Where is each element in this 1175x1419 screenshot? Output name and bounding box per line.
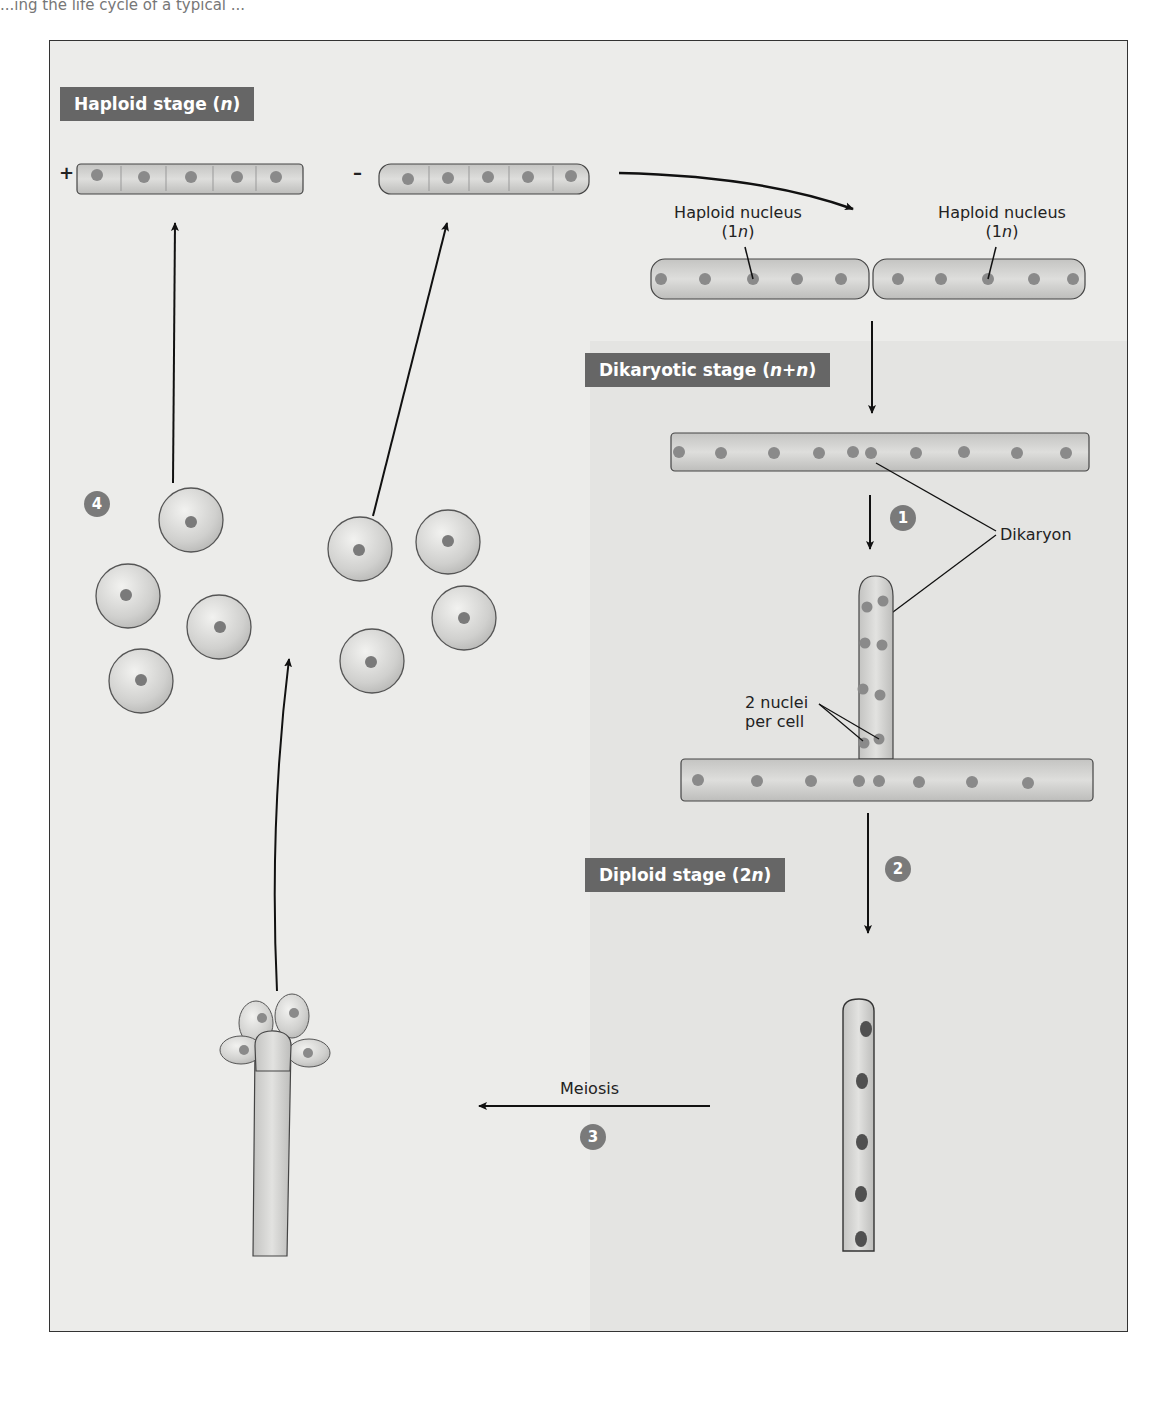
hyphae-fusion xyxy=(651,259,1085,299)
page-caption-fragment: ...ing the life cycle of a typical ... xyxy=(0,0,245,14)
leader-two-nuclei-a xyxy=(819,704,863,741)
label-diploid-stage: Diploid stage (2n) xyxy=(585,858,785,892)
hypha-minus xyxy=(379,164,589,194)
step-badge-2: 2 xyxy=(885,856,911,882)
label-meiosis: Meiosis xyxy=(560,1079,619,1098)
mating-type-minus: – xyxy=(353,163,362,182)
label-haploid-nucleus-left: Haploid nucleus (1n) xyxy=(663,203,813,241)
label-dikaryon: Dikaryon xyxy=(1000,525,1072,544)
dikaryotic-mycelium xyxy=(681,576,1093,801)
arrow-to-spores xyxy=(275,659,289,991)
basidium xyxy=(220,994,330,1256)
label-haploid-nucleus-right: Haploid nucleus (1n) xyxy=(927,203,1077,241)
step-badge-4: 4 xyxy=(84,491,110,517)
arrow-spore-to-plus xyxy=(173,223,175,483)
mating-type-plus: + xyxy=(59,163,74,182)
basidiospores xyxy=(96,488,496,713)
label-haploid-stage: Haploid stage (n) xyxy=(60,87,254,121)
label-dikaryotic-stage: Dikaryotic stage (n+n) xyxy=(585,353,830,387)
step-badge-1: 1 xyxy=(890,505,916,531)
arrow-spore-to-minus xyxy=(373,223,447,516)
hypha-plus xyxy=(77,164,303,194)
diploid-hypha xyxy=(843,999,874,1251)
step-badge-3: 3 xyxy=(580,1124,606,1150)
leader-dikaryon-bottom xyxy=(885,535,996,618)
label-two-nuclei-per-cell: 2 nuclei per cell xyxy=(745,693,808,731)
